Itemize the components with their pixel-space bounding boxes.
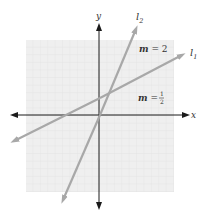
slope-label-m2-m: m <box>139 44 149 54</box>
slope-label-m2: m = 2 <box>139 44 168 54</box>
l1-label: l1 <box>190 47 197 61</box>
slope-label-m2-rest: = 2 <box>149 44 168 54</box>
slope-label-mhalf-m: m <box>138 93 148 103</box>
l2-label: l2 <box>136 11 143 25</box>
y-axis-label: y <box>95 11 102 21</box>
fraction-numerator: 1 <box>160 90 164 97</box>
l2-label-sub: 2 <box>138 17 143 25</box>
slope-label-mhalf: m = <box>138 93 158 103</box>
l1-label-sub: 1 <box>193 53 197 61</box>
fraction-denominator: 2 <box>160 98 164 105</box>
line-slope-figure: y x l2 l1 m = 2 m = 1 2 <box>0 0 207 214</box>
slope-label-mhalf-eq: = <box>148 93 158 103</box>
x-axis-label: x <box>191 110 196 120</box>
